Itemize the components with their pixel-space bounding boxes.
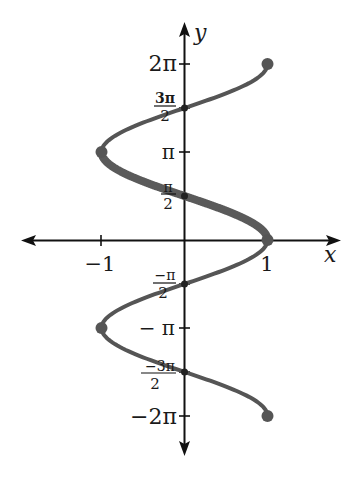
data-point: [262, 58, 274, 70]
y-axis-label: y: [193, 20, 207, 45]
data-point: [181, 105, 188, 112]
frac-denominator: 2: [150, 375, 160, 393]
data-point: [181, 193, 188, 200]
x-tick-label-1: 1: [260, 252, 273, 276]
frac-numerator: π: [163, 179, 172, 195]
data-point: [96, 146, 108, 158]
y-tick-label-neg-3pi-over-2: −3π 2: [141, 358, 176, 393]
data-point: [96, 322, 108, 334]
x-axis-label: x: [324, 242, 337, 267]
frac-denominator: 2: [163, 195, 173, 213]
data-point: [181, 368, 188, 375]
y-tick-label-pi: π: [162, 140, 175, 164]
y-tick-label-2pi: 2π: [149, 51, 177, 76]
data-point: [262, 234, 274, 246]
frac-numerator: 3π: [155, 90, 175, 106]
frac-denominator: 2: [160, 107, 170, 125]
frac-numerator: −3π: [145, 358, 175, 374]
y-tick-label-neg-2pi: −2π: [130, 404, 177, 429]
x-axis: [21, 235, 341, 246]
y-axis: [179, 22, 190, 456]
y-tick-label-neg-pi-over-2: −π 2: [153, 267, 176, 302]
data-point: [181, 280, 188, 287]
frac-numerator: −π: [155, 267, 176, 283]
x-tick-label-neg1: −1: [85, 252, 116, 276]
frac-denominator: 2: [158, 284, 168, 302]
graph-canvas: x y −1 1 2π π − π −2π 3π 2 π 2 −π 2 −3π …: [0, 0, 357, 478]
data-point: [262, 410, 274, 422]
y-tick-label-3pi-over-2: 3π 2: [154, 90, 176, 125]
y-tick-label-neg-pi: − π: [139, 316, 175, 340]
